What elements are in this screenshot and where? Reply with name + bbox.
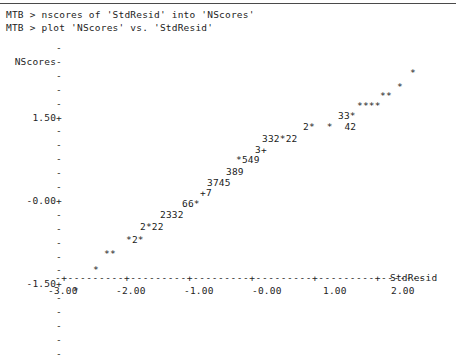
y-axis-tick: - xyxy=(0,70,62,81)
y-axis-tick-label: -0.00+ xyxy=(26,195,62,206)
plot-data-row: * xyxy=(397,81,403,92)
plot-data-row: +7 xyxy=(200,187,212,198)
y-axis-tick: - xyxy=(0,237,62,248)
plot-data-row: 2*22 xyxy=(140,221,164,232)
y-axis-tick: - xyxy=(0,125,62,136)
y-axis-tick-label: - xyxy=(50,98,62,109)
x-axis-tick-label: 1.00 xyxy=(323,285,347,296)
y-axis-tick: - xyxy=(0,84,62,95)
x-axis-tick-label: -2.00 xyxy=(116,285,146,296)
y-axis-tick: - xyxy=(0,306,62,317)
header-divider xyxy=(0,3,456,4)
y-axis-tick-labeled: NScores- xyxy=(0,56,62,67)
y-axis-tick-label: - xyxy=(50,237,62,248)
plot-data-row: 3745 xyxy=(207,177,231,188)
y-axis-tick-label: 1.50+ xyxy=(32,112,62,123)
y-axis-tick: - xyxy=(0,167,62,178)
y-axis-tick: - xyxy=(0,181,62,192)
plot-data-row: 332*22 xyxy=(262,133,298,144)
y-axis-tick: - xyxy=(0,153,62,164)
y-axis-tick-label: - xyxy=(50,167,62,178)
y-axis-tick: - xyxy=(0,348,62,359)
y-axis-tick-label: - xyxy=(50,84,62,95)
y-axis-tick-labeled: 1.50+ xyxy=(0,112,62,123)
y-axis-tick: - xyxy=(0,320,62,331)
y-axis-tick-label: - xyxy=(50,334,62,345)
x-axis-tick-label: -3.00 xyxy=(48,285,78,296)
y-axis-tick: - xyxy=(0,334,62,345)
y-axis-tick-label: NScores- xyxy=(15,56,62,67)
y-axis-tick: - xyxy=(0,209,62,220)
y-axis-tick-label: - xyxy=(50,348,62,359)
y-axis-tick: - xyxy=(0,42,62,53)
x-axis-tick-label: 2.00 xyxy=(391,285,415,296)
y-axis-tick: - xyxy=(0,98,62,109)
plot-data-row: 389 xyxy=(226,166,244,177)
command-line: MTB > nscores of 'StdResid' into 'NScore… xyxy=(6,8,446,21)
y-axis-tick-labeled: -0.00+ xyxy=(0,195,62,206)
plot-data-row: 3+ xyxy=(255,144,267,155)
y-axis-tick-label: - xyxy=(50,42,62,53)
plot-data-row: ** xyxy=(104,248,116,259)
plot-data-row: 2* * 42 xyxy=(303,121,356,132)
x-axis-tick-label: -0.00 xyxy=(252,285,282,296)
plot-data-row: 2332 xyxy=(160,209,184,220)
y-axis-tick: - xyxy=(0,264,62,275)
y-axis-tick-label: - xyxy=(50,70,62,81)
plot-data-row: **** xyxy=(357,100,381,111)
command-log: MTB > nscores of 'StdResid' into 'NScore… xyxy=(6,8,446,34)
y-axis-tick-label: - xyxy=(50,125,62,136)
y-axis-tick-label: - xyxy=(50,320,62,331)
y-axis-tick-label: - xyxy=(50,209,62,220)
character-scatter-plot: -NScores- - - -1.50+ - - - - --0.00+ - -… xyxy=(0,40,456,301)
plot-data-row: *2* xyxy=(126,234,144,245)
y-axis-tick: - xyxy=(0,223,62,234)
x-axis-line: -+---------+---------+---------+--------… xyxy=(55,272,425,283)
y-axis-tick-label: - xyxy=(50,223,62,234)
plot-data-row: 66* xyxy=(182,198,200,209)
y-axis-tick: - xyxy=(0,251,62,262)
y-axis-tick-label: - xyxy=(50,139,62,150)
y-axis-tick-label: - xyxy=(50,306,62,317)
plot-data-row: 33* xyxy=(338,110,356,121)
y-axis-tick: - xyxy=(0,139,62,150)
command-line: MTB > plot 'NScores' vs. 'StdResid' xyxy=(6,21,446,34)
plot-data-row: *549 xyxy=(236,154,260,165)
y-axis-tick-label: - xyxy=(50,251,62,262)
x-axis-tick-label: -1.00 xyxy=(184,285,214,296)
x-axis-title: StdResid xyxy=(390,272,437,283)
y-axis-tick-label: - xyxy=(50,153,62,164)
y-axis-tick-label: - xyxy=(50,181,62,192)
plot-data-row: ** xyxy=(380,90,392,101)
plot-data-row: * xyxy=(410,67,416,78)
